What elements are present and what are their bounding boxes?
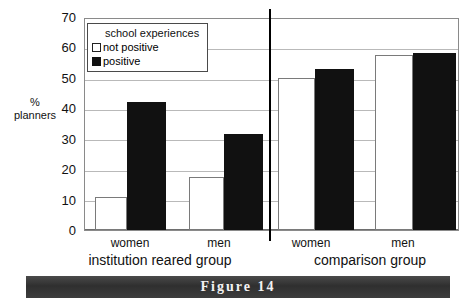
plot-area: school experiences not positive positive	[84, 18, 459, 231]
figure-14-bar-chart: % planners 70 60 50 40 30 20 10 0	[0, 0, 476, 301]
white-square-icon	[92, 43, 101, 52]
figure-caption-bar: Figure 14	[26, 276, 450, 298]
bar-institution-men-positive	[224, 134, 263, 230]
y-tick-20: 20	[50, 163, 76, 176]
group-divider	[269, 9, 271, 241]
bar-institution-women-positive	[127, 102, 166, 230]
figure-caption-text: Figure 14	[26, 276, 450, 298]
y-tick-70: 70	[50, 11, 76, 24]
legend-item-positive: positive	[92, 55, 199, 68]
bar-institution-women-not-positive	[95, 197, 127, 230]
y-tick-40: 40	[50, 102, 76, 115]
legend-item-not-positive: not positive	[92, 41, 199, 54]
x-group-label-comparison: comparison group	[285, 252, 455, 268]
bar-comparison-women-positive	[315, 69, 354, 230]
x-category-comparison-women: women	[281, 236, 341, 250]
bar-institution-men-not-positive	[189, 177, 224, 230]
x-group-label-institution: institution reared group	[60, 252, 260, 268]
y-tick-10: 10	[50, 194, 76, 207]
legend-title: school experiences	[92, 27, 199, 40]
bar-comparison-men-not-positive	[375, 55, 413, 230]
y-tick-0: 0	[50, 224, 76, 237]
x-category-institution-men: men	[194, 236, 244, 250]
black-square-icon	[92, 57, 101, 66]
legend-label-positive: positive	[103, 55, 140, 68]
y-tick-50: 50	[50, 72, 76, 85]
y-tick-30: 30	[50, 133, 76, 146]
y-tick-60: 60	[50, 41, 76, 54]
bar-comparison-men-positive	[413, 53, 456, 230]
chart-legend: school experiences not positive positive	[87, 23, 208, 72]
x-category-institution-women: women	[100, 236, 160, 250]
x-category-comparison-men: men	[378, 236, 428, 250]
bar-comparison-women-not-positive	[278, 78, 315, 230]
legend-label-not-positive: not positive	[103, 41, 159, 54]
